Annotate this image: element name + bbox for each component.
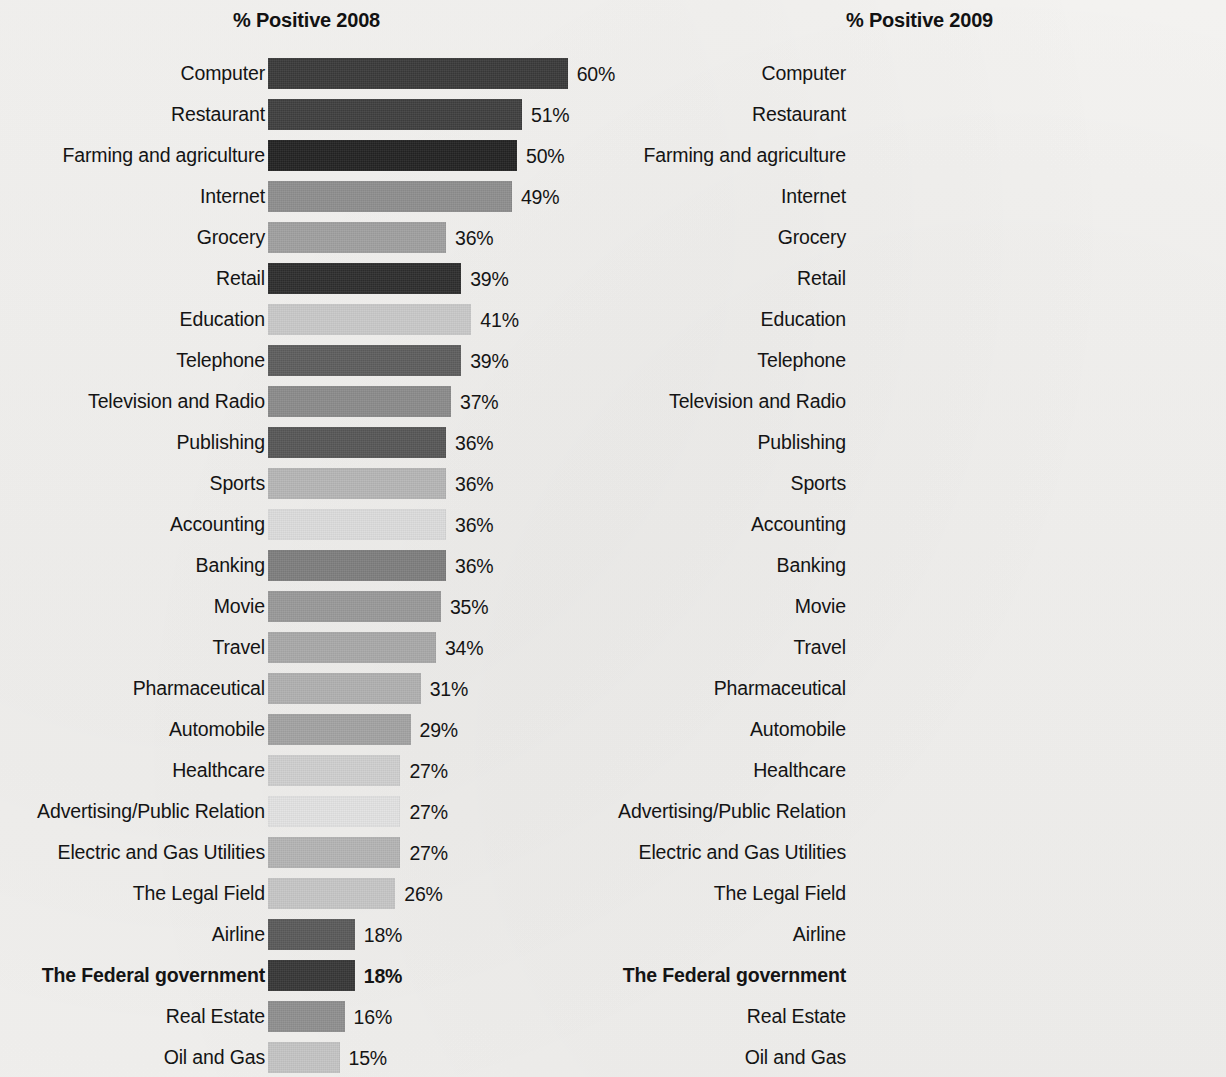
bar-category-label: The Federal government <box>42 960 265 991</box>
bar-value-label: 27% <box>400 837 447 868</box>
bar-row: Accounting34% <box>613 509 1226 550</box>
bar-category-label: Retail <box>797 263 846 294</box>
bar <box>268 181 512 212</box>
bar-value-label: 31% <box>421 673 468 704</box>
bar-category-label: Advertising/Public Relation <box>37 796 265 827</box>
bar-row: Publishing36% <box>0 427 613 468</box>
chart-page: % Positive 2008 Computer60%Restaurant51%… <box>0 0 1226 1077</box>
bar-category-label: Pharmaceutical <box>714 673 846 704</box>
bar-row: Banking36% <box>0 550 613 591</box>
bar-and-value: 60% <box>268 58 615 89</box>
bar-value-label: 37% <box>451 386 498 417</box>
bar-category-label: Accounting <box>170 509 265 540</box>
bar-category-label: Advertising/Public Relation <box>618 796 846 827</box>
bar <box>268 386 451 417</box>
bar-and-value: 36% <box>268 468 493 499</box>
bar <box>268 427 446 458</box>
bar <box>268 714 411 745</box>
bar-row: Computer60% <box>0 58 613 99</box>
bar-and-value: 31% <box>268 673 468 704</box>
bar-row: Electric and Gas Utilities31% <box>613 837 1226 878</box>
bar-row: Television and Radio37% <box>0 386 613 427</box>
bar-category-label: Movie <box>214 591 265 622</box>
chart-panel-2009: % Positive 2009 Computer62%Restaurant57%… <box>613 0 1226 1077</box>
bar-row: Restaurant51% <box>0 99 613 140</box>
bar-and-value: 35% <box>268 591 488 622</box>
bar-category-label: Healthcare <box>753 755 846 786</box>
bar-category-label: Education <box>761 304 846 335</box>
bar-category-label: Electric and Gas Utilities <box>58 837 265 868</box>
bar-row: Travel34% <box>0 632 613 673</box>
bar-category-label: Movie <box>795 591 846 622</box>
bar-row: Pharmaceutical31% <box>0 673 613 714</box>
bar <box>268 99 522 130</box>
bar-row: Oil and Gas21% <box>613 1042 1226 1077</box>
bar-value-label: 26% <box>395 878 442 909</box>
bar-category-label: Internet <box>200 181 265 212</box>
bar-category-label: Internet <box>781 181 846 212</box>
bar-row: Telephone41% <box>613 345 1226 386</box>
bar-value-label: 34% <box>436 632 483 663</box>
bar-value-label: 36% <box>446 509 493 540</box>
bar-row: Oil and Gas15% <box>0 1042 613 1077</box>
bar-category-label: Grocery <box>778 222 846 253</box>
bar <box>268 263 461 294</box>
bar <box>268 140 517 171</box>
bar-row: Automobile29% <box>0 714 613 755</box>
bar-rows-2009: Computer62%Restaurant57%Farming and agri… <box>613 58 1226 1077</box>
bar <box>268 468 446 499</box>
bar <box>268 919 355 950</box>
bar-row: Farming and agriculture50% <box>0 140 613 181</box>
bar-row: Healthcare36% <box>613 755 1226 796</box>
bar-row: Advertising/Public Relation31% <box>613 796 1226 837</box>
bar-and-value: 36% <box>268 509 493 540</box>
bar-category-label: Television and Radio <box>669 386 846 417</box>
bar-row: Sports36% <box>0 468 613 509</box>
bar-and-value: 34% <box>268 632 483 663</box>
bar-row: Retail39% <box>0 263 613 304</box>
bar-category-label: Airline <box>212 919 265 950</box>
bar <box>268 960 355 991</box>
bar-and-value: 36% <box>268 427 493 458</box>
bar-row: Pharmaceutical31% <box>613 673 1226 714</box>
bar <box>268 222 446 253</box>
bar-category-label: The Federal government <box>623 960 846 991</box>
bar <box>268 304 471 335</box>
bar-and-value: 26% <box>268 878 443 909</box>
bar-value-label: 36% <box>446 550 493 581</box>
bar-category-label: The Legal Field <box>133 878 265 909</box>
bar-category-label: Banking <box>196 550 265 581</box>
bar-and-value: 41% <box>268 304 519 335</box>
bar-category-label: Accounting <box>751 509 846 540</box>
bar-category-label: Computer <box>762 58 846 89</box>
bar-and-value: 51% <box>268 99 570 130</box>
bar <box>268 632 436 663</box>
bar-value-label: 50% <box>517 140 564 171</box>
bar-value-label: 41% <box>471 304 518 335</box>
bar <box>268 878 395 909</box>
bar-category-label: Automobile <box>169 714 265 745</box>
bar-category-label: Banking <box>777 550 846 581</box>
bar-row: Movie38% <box>613 591 1226 632</box>
bar-row: Farming and agriculture56% <box>613 140 1226 181</box>
bar-value-label: 18% <box>355 960 402 991</box>
bar-and-value: 16% <box>268 1001 392 1032</box>
bar-category-label: Publishing <box>758 427 846 458</box>
bar-category-label: Publishing <box>177 427 265 458</box>
bar <box>268 58 568 89</box>
bar-category-label: Grocery <box>197 222 265 253</box>
bar-category-label: Computer <box>181 58 265 89</box>
bar-value-label: 18% <box>355 919 402 950</box>
bar-category-label: Real Estate <box>747 1001 846 1032</box>
bar-row: Airline18% <box>0 919 613 960</box>
bar <box>268 755 400 786</box>
bar-category-label: Sports <box>210 468 265 499</box>
bar-row: Television and Radio40% <box>613 386 1226 427</box>
bar-value-label: 29% <box>411 714 458 745</box>
bar-and-value: 36% <box>268 550 493 581</box>
bar-value-label: 39% <box>461 345 508 376</box>
bar-value-label: 27% <box>400 755 447 786</box>
bar-category-label: Restaurant <box>752 99 846 130</box>
chart-title-2009: % Positive 2009 <box>613 9 1226 32</box>
bar <box>268 673 421 704</box>
